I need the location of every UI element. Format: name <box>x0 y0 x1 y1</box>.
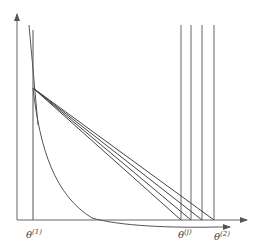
theta1-label: θ(1) <box>26 228 42 240</box>
convex-curve <box>33 88 218 227</box>
theta2-label: θ(2) <box>214 230 230 242</box>
thetaj-label: θ(j) <box>178 228 192 240</box>
diagram-canvas: θ(1) θ(j) θ(2) <box>0 0 260 250</box>
fan-line-3 <box>33 88 202 220</box>
fan-line-4 <box>33 88 214 220</box>
fan-line-2 <box>33 88 191 220</box>
fan-line-1 <box>33 88 181 220</box>
